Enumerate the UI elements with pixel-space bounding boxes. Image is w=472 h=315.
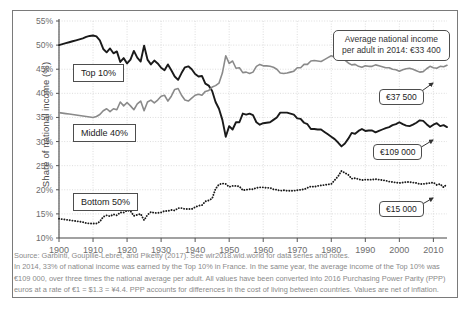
source-note: Source: Garbinti, Goupille-Lebret, and P… <box>14 250 454 296</box>
callout-bottom50-value: €15 000 <box>379 201 424 217</box>
callout-average-national-income: Average national income per adult in 201… <box>333 30 450 61</box>
source-note-line2: In 2014, 33% of national income was earn… <box>14 261 454 272</box>
svg-text:15%: 15% <box>36 209 53 219</box>
svg-text:10%: 10% <box>36 233 53 243</box>
callout-middle40-value: €37 500 <box>379 89 424 105</box>
series-label-bottom50: Bottom 50% <box>73 193 138 211</box>
series-label-top10: Top 10% <box>73 64 124 82</box>
callout-top10-value: €109 000 <box>373 144 422 160</box>
callout-average-line2: per adult in 2014: €33 400 <box>342 45 441 55</box>
series-label-middle40: Middle 40% <box>73 124 136 142</box>
chart-figure: 10%15%20%25%30%35%40%45%50%55%1900191019… <box>0 0 472 315</box>
source-note-line1: Source: Garbinti, Goupille-Lebret, and P… <box>14 250 454 261</box>
svg-text:55%: 55% <box>36 16 53 26</box>
callout-average-line1: Average national income <box>345 34 438 44</box>
source-note-line3: €109 000, over three times the national … <box>14 273 454 284</box>
source-note-line4: euros at a rate of €1 = $1.3 = ¥4.4. PPP… <box>14 284 454 295</box>
y-axis-title: Share of national income (%) <box>40 45 51 205</box>
